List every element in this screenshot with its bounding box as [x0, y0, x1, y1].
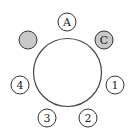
seat-blank-filled — [19, 31, 37, 49]
seating-diagram: A C 1 2 3 4 — [0, 0, 134, 137]
seat-label: A — [62, 16, 72, 29]
seat-label: C — [100, 34, 108, 47]
seat-2: 2 — [79, 109, 97, 127]
seat-label: 1 — [112, 79, 119, 92]
seat-3: 3 — [38, 109, 56, 127]
seat-label: 2 — [85, 112, 92, 125]
seat-label: 3 — [44, 112, 51, 125]
seat-C: C — [95, 31, 113, 49]
seat-1: 1 — [106, 76, 124, 94]
seat-label: 4 — [17, 79, 24, 92]
seat-4: 4 — [11, 76, 29, 94]
seat-circle — [19, 31, 37, 49]
round-table — [34, 39, 102, 107]
seat-A: A — [58, 13, 76, 31]
